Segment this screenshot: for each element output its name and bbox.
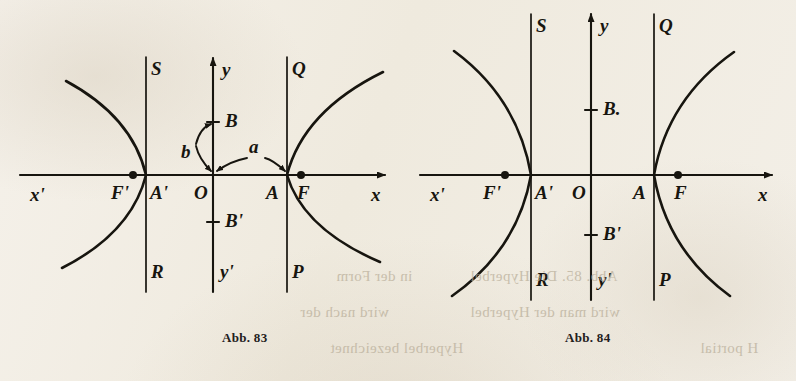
semi-axis-a-arrow-left bbox=[217, 158, 247, 171]
focus-point-left bbox=[501, 171, 509, 179]
caption-abb-84: Abb. 84 bbox=[565, 330, 610, 346]
abb-83-label-b-upper: B bbox=[225, 111, 238, 130]
abb-83-label-focus-left: F' bbox=[111, 183, 129, 202]
abb-84-label-y-axis-positive: y bbox=[600, 16, 608, 35]
abb-84-label-b-lower: B' bbox=[603, 224, 621, 243]
abb-83-label-vertex-left: A' bbox=[150, 183, 168, 202]
semi-axis-a-arrow-right bbox=[265, 158, 285, 171]
abb-83-label-vertex-right: A bbox=[266, 183, 279, 202]
abb-83-label-x-axis-negative: x' bbox=[30, 185, 45, 204]
label-semi-axis-a: a bbox=[249, 137, 259, 156]
caption-abb-83: Abb. 83 bbox=[222, 330, 267, 346]
abb-84-label-x-axis-negative: x' bbox=[430, 185, 445, 204]
abb-84-label-focus-left: F' bbox=[483, 183, 501, 202]
abb-84-label-directrix-p: P bbox=[659, 270, 671, 289]
abb-83-label-x-axis-positive: x bbox=[371, 185, 381, 204]
abb-84-label-vertex-left: A' bbox=[535, 183, 553, 202]
abb-84-label-directrix-r: R bbox=[536, 270, 549, 289]
hyperbola-branch-left bbox=[452, 51, 531, 296]
label-semi-axis-b: b bbox=[181, 142, 191, 161]
abb-84-label-y-axis-negative: y' bbox=[598, 270, 612, 289]
figure-abb-83 bbox=[20, 57, 385, 292]
abb-84-label-b-upper: B. bbox=[603, 99, 620, 118]
hyperbola-branch-right bbox=[287, 72, 383, 262]
abb-83-label-directrix-s: S bbox=[151, 59, 162, 78]
focus-point-left bbox=[129, 171, 137, 179]
abb-83-label-focus-right: F bbox=[297, 183, 310, 202]
abb-83-label-directrix-q: Q bbox=[292, 59, 306, 78]
abb-84-label-focus-right: F bbox=[674, 183, 687, 202]
abb-83-label-b-lower: B' bbox=[225, 211, 243, 230]
abb-84-label-x-axis-positive: x bbox=[758, 185, 768, 204]
semi-axis-b-arrow-up bbox=[196, 124, 211, 144]
focus-point-right bbox=[297, 171, 305, 179]
abb-84-label-directrix-s: S bbox=[536, 16, 547, 35]
abb-83-label-origin: O bbox=[194, 183, 208, 202]
abb-83-label-directrix-p: P bbox=[292, 262, 304, 281]
abb-84-label-vertex-right: A bbox=[633, 183, 646, 202]
abb-83-label-y-axis-negative: y' bbox=[220, 262, 234, 281]
abb-83-label-y-axis-positive: y bbox=[222, 60, 230, 79]
abb-83-label-directrix-r: R bbox=[151, 262, 164, 281]
abb-84-label-origin: O bbox=[572, 183, 586, 202]
figure-abb-84 bbox=[420, 14, 772, 300]
focus-point-right bbox=[674, 171, 682, 179]
semi-axis-b-arrow-down bbox=[196, 146, 211, 171]
abb-84-label-directrix-q: Q bbox=[659, 16, 673, 35]
